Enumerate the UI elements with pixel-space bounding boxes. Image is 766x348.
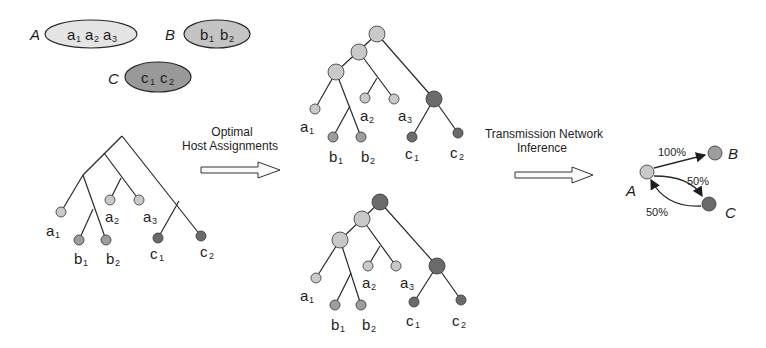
network-inference-step: Transmission Network Inference [485, 127, 604, 183]
input-phylogeny-leaves [56, 195, 206, 245]
svg-text:c: c [141, 69, 149, 86]
svg-text:B: B [728, 145, 738, 162]
svg-text:b: b [329, 148, 337, 165]
svg-text:c: c [160, 69, 168, 86]
assignment-tree-1: a1 a2 a3 b1 b2 c1 c2 [300, 26, 464, 166]
svg-text:a: a [85, 26, 94, 43]
leaf-c2 [196, 231, 206, 241]
host-b-label: B [165, 26, 175, 43]
leaf-b2 [101, 235, 111, 245]
right-arrow-icon [515, 167, 593, 183]
svg-text:1: 1 [309, 126, 314, 136]
right-arrow-icon [201, 162, 280, 178]
leaf-a1 [56, 207, 66, 217]
svg-text:2: 2 [94, 34, 99, 44]
svg-text:C: C [725, 204, 736, 221]
svg-text:2: 2 [370, 156, 375, 166]
node-a [640, 165, 654, 179]
svg-text:a: a [300, 118, 309, 135]
svg-text:2: 2 [371, 282, 376, 292]
svg-text:a: a [400, 274, 409, 291]
svg-text:c: c [150, 245, 158, 262]
svg-text:a: a [103, 26, 112, 43]
svg-text:1: 1 [414, 153, 419, 163]
svg-text:1: 1 [83, 258, 88, 268]
svg-text:b: b [361, 148, 369, 165]
svg-text:a: a [362, 274, 371, 291]
svg-text:1: 1 [55, 230, 60, 240]
svg-text:3: 3 [112, 34, 117, 44]
host-a-samples: a1 a2 a3 [67, 26, 117, 44]
svg-text:b: b [200, 26, 208, 43]
svg-text:2: 2 [371, 324, 376, 334]
svg-text:c: c [405, 145, 413, 162]
transmission-network: A B C 100% 50% 50% [625, 145, 738, 221]
svg-text:b: b [74, 250, 82, 267]
svg-text:a: a [67, 26, 76, 43]
assignment-tree-2: a1 a2 a3 b1 b2 c1 c2 [300, 194, 466, 334]
svg-text:a: a [46, 222, 55, 239]
svg-text:b: b [106, 250, 114, 267]
svg-text:2: 2 [209, 251, 214, 261]
svg-text:1: 1 [415, 320, 420, 330]
svg-text:b: b [331, 316, 339, 333]
edge-c-a-label: 50% [646, 206, 668, 218]
svg-text:c: c [452, 312, 460, 329]
svg-text:2: 2 [369, 115, 374, 125]
host-b-ellipse [184, 20, 250, 48]
leaf-b1 [74, 235, 84, 245]
svg-text:A: A [625, 182, 636, 199]
svg-text:a: a [300, 287, 309, 304]
svg-text:2: 2 [461, 320, 466, 330]
svg-text:a: a [143, 208, 152, 225]
svg-text:2: 2 [169, 77, 174, 87]
svg-text:3: 3 [152, 216, 157, 226]
svg-text:1: 1 [159, 253, 164, 263]
svg-text:3: 3 [409, 282, 414, 292]
svg-text:Optimal: Optimal [211, 125, 252, 139]
leaf-a2 [105, 195, 115, 205]
svg-text:1: 1 [150, 77, 155, 87]
svg-text:1: 1 [76, 34, 81, 44]
input-phylogeny-labels: a1 a2 a3 b1 b2 c1 c2 [46, 208, 214, 268]
leaf-a3 [134, 195, 144, 205]
host-a-label: A [29, 26, 40, 43]
diagram-canvas: A a1 a2 a3 B b1 b2 C c1 c2 [0, 0, 766, 348]
svg-text:2: 2 [114, 216, 119, 226]
svg-text:3: 3 [407, 115, 412, 125]
host-legend: A a1 a2 a3 B b1 b2 C c1 c2 [29, 20, 250, 92]
svg-text:a: a [105, 208, 114, 225]
node-b [708, 146, 722, 160]
svg-text:b: b [220, 26, 228, 43]
svg-text:a: a [360, 107, 369, 124]
svg-text:c: c [450, 144, 458, 161]
svg-text:Host Assignments: Host Assignments [182, 139, 278, 153]
svg-text:1: 1 [209, 34, 214, 44]
svg-text:c: c [200, 243, 208, 260]
host-c-ellipse [125, 62, 191, 92]
svg-text:a: a [398, 107, 407, 124]
svg-text:b: b [362, 316, 370, 333]
svg-text:c: c [406, 312, 414, 329]
svg-text:Transmission Network: Transmission Network [485, 127, 604, 141]
svg-text:1: 1 [338, 156, 343, 166]
leaf-c1 [153, 233, 163, 243]
host-c-label: C [108, 70, 119, 87]
svg-text:2: 2 [229, 34, 234, 44]
svg-text:1: 1 [340, 324, 345, 334]
edge-a-c-label: 50% [687, 175, 709, 187]
svg-text:2: 2 [115, 258, 120, 268]
svg-text:2: 2 [459, 152, 464, 162]
svg-text:Inference: Inference [517, 141, 567, 155]
edge-a-b-label: 100% [658, 146, 686, 158]
svg-text:1: 1 [309, 295, 314, 305]
input-phylogeny [61, 136, 201, 240]
host-assignment-step: Optimal Host Assignments [182, 125, 280, 178]
node-c [702, 197, 716, 211]
